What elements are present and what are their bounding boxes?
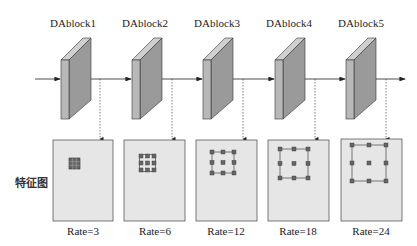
feature-maps — [53, 139, 402, 221]
feature-map-1 — [53, 140, 113, 221]
rate-label-1: Rate=3 — [67, 225, 99, 237]
feature-map-row-label: 特征图 — [15, 174, 48, 190]
da-blocks — [61, 38, 376, 119]
diagram-canvas — [0, 0, 417, 246]
daspp-diagram: DAblock1 DAblock2 DAblock3 DAblock4 DAbl… — [0, 0, 417, 246]
block-label-2: DAblock2 — [122, 17, 168, 29]
feature-map-4 — [268, 140, 329, 221]
feature-map-3 — [196, 140, 257, 221]
block-label-4: DAblock4 — [266, 17, 312, 29]
block-label-5: DAblock5 — [338, 17, 384, 29]
feature-map-5 — [341, 139, 402, 221]
feature-map-2 — [124, 140, 185, 221]
rate-label-4: Rate=18 — [279, 225, 316, 237]
da-block-2-shape — [132, 38, 162, 119]
da-block-1-shape — [61, 38, 91, 119]
da-block-3-shape — [203, 38, 233, 119]
da-block-5-shape — [346, 38, 376, 119]
block-label-3: DAblock3 — [194, 17, 240, 29]
da-block-4-shape — [275, 38, 305, 119]
rate-label-5: Rate=24 — [352, 225, 389, 237]
rate-label-2: Rate=6 — [139, 225, 171, 237]
rate-label-3: Rate=12 — [207, 225, 244, 237]
block-label-1: DAblock1 — [50, 17, 96, 29]
